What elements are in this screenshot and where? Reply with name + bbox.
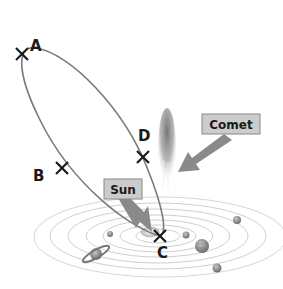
point-label-c: C	[157, 244, 168, 262]
comet-icon	[158, 108, 176, 188]
planet-icon	[233, 216, 241, 224]
point-label-b: B	[33, 167, 44, 185]
planet-icon	[213, 264, 222, 273]
comet-orbit-diagram: A B C D Comet Sun	[0, 0, 283, 289]
comet-callout: Comet	[202, 114, 260, 134]
comet-callout-arrow	[178, 134, 232, 172]
point-marker-d	[137, 151, 149, 163]
point-label-d: D	[138, 127, 150, 145]
point-label-a: A	[30, 37, 42, 55]
point-marker-b	[56, 162, 68, 174]
planet-icon	[183, 232, 190, 239]
sun-label: Sun	[110, 183, 136, 197]
sun-callout: Sun	[104, 179, 142, 199]
planet-icon	[107, 231, 113, 237]
comet-label: Comet	[209, 118, 253, 132]
jupiter-icon	[195, 239, 209, 253]
sun-callout-arrow	[118, 196, 152, 232]
